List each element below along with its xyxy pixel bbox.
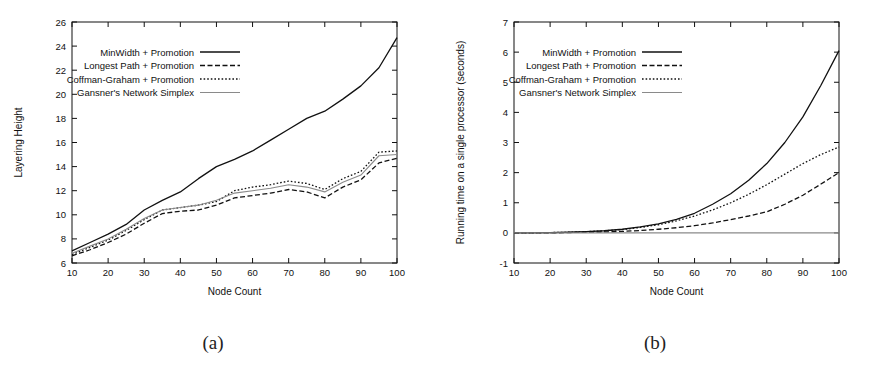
- series-line-3: [514, 147, 839, 233]
- y-tick-label: 6: [61, 258, 66, 269]
- y-tick-label: 24: [55, 41, 66, 52]
- x-tick-label: 50: [653, 267, 664, 278]
- x-tick-label: 40: [617, 267, 628, 278]
- plot-frame: [514, 22, 839, 263]
- running-time-chart: 102030405060708090100-101234567Node Coun…: [442, 0, 885, 320]
- y-tick-label: 14: [55, 161, 66, 172]
- caption-row: (a) (b): [0, 318, 885, 383]
- y-tick-label: 18: [55, 113, 66, 124]
- y-tick-label: 8: [61, 233, 66, 244]
- legend-label-3: Coffman-Graham + Promotion: [509, 74, 636, 85]
- y-tick-label: 2: [503, 167, 508, 178]
- y-tick-label: 4: [503, 107, 508, 118]
- y-tick-label: -1: [500, 258, 508, 269]
- x-tick-label: 30: [581, 267, 592, 278]
- series-line-2: [514, 173, 839, 233]
- y-tick-label: 10: [55, 209, 66, 220]
- y-tick-label: 0: [503, 227, 508, 238]
- y-tick-label: 6: [503, 47, 508, 58]
- legend-label-1: MinWidth + Promotion: [100, 47, 194, 58]
- x-tick-label: 10: [67, 267, 78, 278]
- y-tick-label: 20: [55, 89, 66, 100]
- y-tick-label: 3: [503, 137, 508, 148]
- x-tick-label: 90: [798, 267, 809, 278]
- y-axis-title: Running time on a single processor (seco…: [455, 41, 466, 244]
- x-tick-label: 90: [356, 267, 367, 278]
- y-tick-label: 5: [503, 77, 508, 88]
- x-tick-label: 50: [211, 267, 222, 278]
- x-tick-label: 60: [247, 267, 258, 278]
- x-tick-label: 40: [175, 267, 186, 278]
- x-tick-label: 80: [761, 267, 772, 278]
- y-tick-label: 16: [55, 137, 66, 148]
- x-tick-label: 60: [689, 267, 700, 278]
- caption-a: (a): [183, 332, 243, 354]
- layering-height-chart: 1020304050607080901006810121416182022242…: [0, 0, 443, 320]
- y-tick-label: 7: [503, 17, 508, 28]
- legend-label-1: MinWidth + Promotion: [542, 47, 636, 58]
- y-axis-title: Layering Height: [13, 107, 24, 177]
- x-axis-title: Node Count: [650, 286, 704, 297]
- x-tick-label: 10: [509, 267, 520, 278]
- x-tick-label: 30: [139, 267, 150, 278]
- y-tick-label: 22: [55, 65, 66, 76]
- series-line-2: [72, 158, 397, 256]
- x-tick-label: 80: [319, 267, 330, 278]
- y-tick-label: 12: [55, 185, 66, 196]
- y-tick-label: 1: [503, 197, 508, 208]
- figure-row: 1020304050607080901006810121416182022242…: [0, 0, 885, 320]
- legend-label-3: Coffman-Graham + Promotion: [67, 74, 194, 85]
- x-tick-label: 70: [725, 267, 736, 278]
- series-line-3: [72, 151, 397, 255]
- chart-panel-a: 1020304050607080901006810121416182022242…: [0, 0, 443, 320]
- series-line-4: [72, 155, 397, 254]
- x-tick-label: 20: [545, 267, 556, 278]
- x-tick-label: 100: [831, 267, 847, 278]
- legend-label-4: Gansner's Network Simplex: [519, 87, 636, 98]
- legend-label-2: Longest Path + Promotion: [84, 60, 194, 71]
- legend-label-2: Longest Path + Promotion: [526, 60, 636, 71]
- legend-label-4: Gansner's Network Simplex: [77, 87, 194, 98]
- y-tick-label: 26: [55, 17, 66, 28]
- x-tick-label: 100: [389, 267, 405, 278]
- chart-panel-b: 102030405060708090100-101234567Node Coun…: [442, 0, 885, 320]
- x-tick-label: 70: [283, 267, 294, 278]
- x-tick-label: 20: [103, 267, 114, 278]
- caption-b: (b): [625, 332, 685, 354]
- x-axis-title: Node Count: [208, 286, 262, 297]
